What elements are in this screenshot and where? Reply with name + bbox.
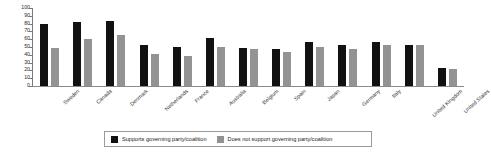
legend-label: Supports governing party/coalition bbox=[122, 136, 207, 143]
bar-supports bbox=[140, 45, 148, 86]
bar-group bbox=[438, 8, 457, 86]
bar-group bbox=[140, 8, 159, 86]
bar-does-not-support bbox=[383, 45, 391, 86]
x-axis-label: Spain bbox=[292, 88, 306, 102]
bar-does-not-support bbox=[117, 35, 125, 86]
chart-legend: Supports governing party/coalitionDoes n… bbox=[104, 131, 372, 147]
bar-does-not-support bbox=[84, 39, 92, 86]
legend-entry: Supports governing party/coalition bbox=[111, 136, 207, 143]
bar-group bbox=[239, 8, 258, 86]
bar-supports bbox=[338, 45, 346, 86]
legend-entry: Does not support governing party/coaliti… bbox=[217, 136, 333, 143]
bar-does-not-support bbox=[449, 69, 457, 86]
bar-group bbox=[106, 8, 125, 86]
bar-group bbox=[305, 8, 324, 86]
bar-supports bbox=[206, 38, 214, 86]
bar-does-not-support bbox=[283, 52, 291, 86]
bar-does-not-support bbox=[416, 45, 424, 86]
bar-group bbox=[338, 8, 357, 86]
legend-label: Does not support governing party/coaliti… bbox=[228, 136, 333, 143]
y-axis-tick-labels: 0102030405060708090100 bbox=[14, 4, 30, 85]
bar-does-not-support bbox=[217, 47, 225, 86]
bar-group bbox=[73, 8, 92, 86]
bar-supports bbox=[372, 42, 380, 86]
x-axis-line bbox=[32, 86, 464, 87]
bar-supports bbox=[405, 45, 413, 86]
bar-does-not-support bbox=[349, 49, 357, 86]
x-axis-label: Belgium bbox=[261, 88, 279, 105]
x-axis-label: France bbox=[193, 88, 209, 104]
bar-group bbox=[173, 8, 192, 86]
x-axis-label: Germany bbox=[361, 88, 381, 107]
bar-group bbox=[272, 8, 291, 86]
x-axis-label: Sweden bbox=[62, 88, 80, 105]
bars-container bbox=[33, 8, 464, 86]
bar-supports bbox=[40, 24, 48, 86]
bar-does-not-support bbox=[250, 49, 258, 86]
bar-does-not-support bbox=[184, 56, 192, 86]
x-axis-label: Denmark bbox=[128, 88, 148, 107]
x-axis-label: Netherlands bbox=[164, 88, 190, 112]
x-axis-label: Canada bbox=[95, 88, 113, 105]
x-axis-category-labels: SwedenCanadaDenmarkNetherlandsFranceAust… bbox=[33, 88, 464, 126]
bar-supports bbox=[305, 42, 313, 86]
bar-supports bbox=[73, 22, 81, 86]
x-axis-label: Australia bbox=[228, 88, 248, 107]
x-axis-label: United Kingdom bbox=[431, 88, 464, 118]
bar-group bbox=[372, 8, 391, 86]
x-axis-label: United States bbox=[463, 88, 491, 114]
bar-group bbox=[206, 8, 225, 86]
bar-supports bbox=[438, 68, 446, 86]
bar-supports bbox=[106, 21, 114, 86]
bar-does-not-support bbox=[51, 48, 59, 86]
bar-does-not-support bbox=[316, 47, 324, 86]
legend-swatch-icon bbox=[217, 136, 224, 143]
x-axis-label: Japan bbox=[326, 88, 341, 102]
bar-supports bbox=[239, 48, 247, 86]
bar-does-not-support bbox=[151, 54, 159, 86]
bar-supports bbox=[173, 47, 181, 86]
plot-area: 0102030405060708090100 SwedenCanadaDenma… bbox=[0, 0, 473, 128]
bar-supports bbox=[272, 49, 280, 86]
bar-group bbox=[405, 8, 424, 86]
legend-swatch-icon bbox=[111, 136, 118, 143]
bar-group bbox=[40, 8, 59, 86]
x-axis-label: Italy bbox=[391, 88, 402, 99]
